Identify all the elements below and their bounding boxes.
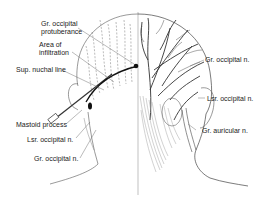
infiltration-arc	[86, 66, 138, 102]
label-lsr-occipital-n-right: Lsr. occipital n.	[207, 95, 253, 103]
occipital-nerve-diagram: Gr. occipital protuberance Area of infil…	[0, 0, 268, 206]
muscle-hatching	[140, 96, 180, 172]
nerve-tree-right	[141, 18, 204, 120]
protuberance-dot	[134, 64, 139, 69]
label-mastoid-process: Mastoid process	[16, 121, 67, 129]
mastoid-mark	[88, 103, 92, 110]
label-area-of-infiltration: Area of infiltration	[39, 41, 69, 56]
label-gr-occipital-n-left: Gr. occipital n.	[34, 155, 78, 163]
label-sup-nuchal-line: Sup. nuchal line	[16, 66, 66, 74]
label-gr-occipital-n-right: Gr. occipital n.	[205, 56, 249, 64]
label-lsr-occipital-n-left: Lsr. occipital n.	[27, 136, 73, 144]
label-gr-auricular-n-right: Gr. auricular n.	[202, 127, 248, 135]
head-outline-left	[77, 14, 138, 86]
label-gr-occipital-protuberance: Gr. occipital protuberance	[41, 20, 82, 35]
leader-lines-right	[188, 60, 205, 130]
ear-left	[68, 84, 78, 110]
